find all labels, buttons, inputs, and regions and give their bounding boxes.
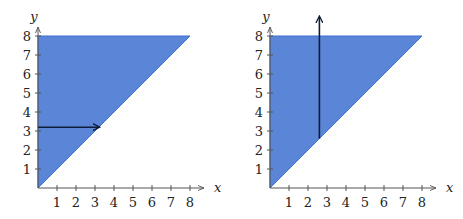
- y-tick-label: 2: [23, 143, 31, 158]
- shaded-region: [38, 36, 190, 188]
- y-tick-label: 4: [255, 105, 263, 120]
- right-plot: 1234567812345678xy: [232, 0, 463, 219]
- x-tick-label: 2: [72, 195, 80, 210]
- x-axis-label: x: [214, 180, 222, 195]
- x-tick-label: 7: [167, 195, 175, 210]
- y-tick-label: 3: [255, 124, 263, 139]
- y-tick-label: 8: [255, 29, 263, 44]
- x-tick-label: 2: [304, 195, 312, 210]
- y-axis-label: y: [29, 9, 38, 24]
- y-tick-label: 1: [255, 162, 263, 177]
- y-tick-label: 8: [23, 29, 31, 44]
- y-tick-label: 6: [23, 67, 31, 82]
- x-tick-label: 4: [110, 195, 118, 210]
- x-tick-label: 6: [380, 195, 388, 210]
- y-tick-label: 7: [255, 48, 263, 63]
- y-tick-label: 5: [255, 86, 263, 101]
- x-tick-label: 3: [91, 195, 99, 210]
- y-tick-label: 4: [23, 105, 31, 120]
- x-tick-label: 5: [129, 195, 137, 210]
- x-tick-label: 1: [53, 195, 61, 210]
- y-tick-label: 3: [23, 124, 31, 139]
- x-tick-label: 4: [342, 195, 350, 210]
- left-plot: 1234567812345678xy: [0, 0, 231, 219]
- x-tick-label: 8: [186, 195, 194, 210]
- plot-canvas: 1234567812345678xy: [232, 0, 463, 219]
- y-tick-label: 1: [23, 162, 31, 177]
- x-tick-label: 1: [285, 195, 293, 210]
- plot-canvas: 1234567812345678xy: [0, 0, 231, 219]
- y-tick-label: 6: [255, 67, 263, 82]
- y-tick-label: 2: [255, 143, 263, 158]
- x-tick-label: 5: [361, 195, 369, 210]
- y-tick-label: 5: [23, 86, 31, 101]
- x-tick-label: 3: [323, 195, 331, 210]
- y-axis-label: y: [261, 9, 270, 24]
- x-tick-label: 6: [148, 195, 156, 210]
- x-axis-label: x: [446, 180, 454, 195]
- shaded-region: [270, 36, 422, 188]
- x-tick-label: 7: [399, 195, 407, 210]
- y-tick-label: 7: [23, 48, 31, 63]
- x-tick-label: 8: [418, 195, 426, 210]
